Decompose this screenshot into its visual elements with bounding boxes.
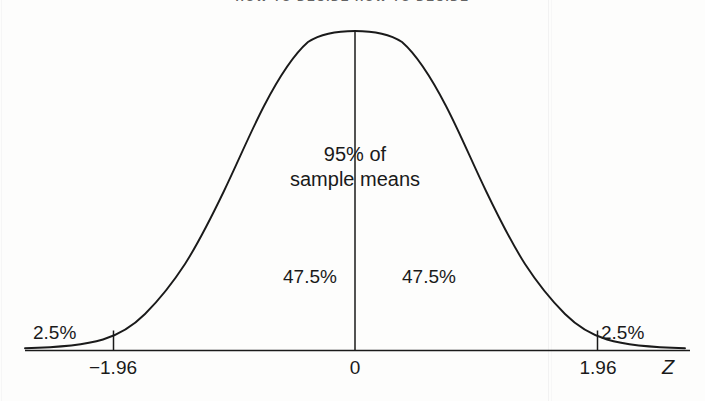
center-region-annotation-line1: 95% of bbox=[324, 143, 386, 165]
right-tail-area-label: 2.5% bbox=[601, 322, 644, 344]
x-tick-label-positive-critical: 1.96 bbox=[580, 357, 617, 379]
x-axis-variable-label: Z bbox=[662, 356, 674, 379]
center-region-annotation: 95% of sample means bbox=[290, 142, 420, 192]
right-half-area-label: 47.5% bbox=[402, 266, 456, 288]
figure-canvas: HOW TO DECIDE HOW TO DECIDE 95% of sampl… bbox=[0, 0, 705, 401]
normal-curve-plot bbox=[0, 0, 705, 401]
center-region-annotation-line2: sample means bbox=[290, 167, 420, 192]
left-half-area-label: 47.5% bbox=[283, 266, 337, 288]
x-tick-label-negative-critical: −1.96 bbox=[89, 357, 137, 379]
x-tick-label-zero: 0 bbox=[350, 357, 361, 379]
left-tail-area-label: 2.5% bbox=[33, 322, 76, 344]
